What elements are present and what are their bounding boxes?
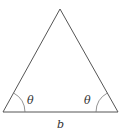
right-angle-arc xyxy=(96,93,107,112)
triangle-diagram: θ θ b xyxy=(0,0,128,135)
left-angle-arc xyxy=(14,93,25,112)
triangle xyxy=(3,9,118,112)
base-label: b xyxy=(57,118,64,131)
right-angle-label: θ xyxy=(84,94,91,107)
left-angle-label: θ xyxy=(27,94,34,107)
